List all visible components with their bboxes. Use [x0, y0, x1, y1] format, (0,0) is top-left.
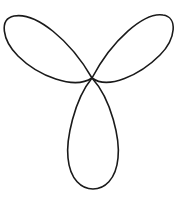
figure-background: [0, 0, 177, 200]
rose-curve-svg: Three-petaled rose curve: [0, 0, 177, 200]
figure-canvas: Three-petaled rose curve: [0, 0, 177, 200]
